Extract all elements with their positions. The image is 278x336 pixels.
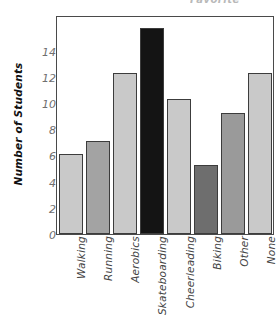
y-tick-8: 8	[30, 125, 56, 136]
bar-series	[57, 17, 273, 234]
y-tick-14: 14	[30, 46, 56, 57]
bar-skateboarding	[140, 28, 164, 234]
x-axis-tick-labels: WalkingRunningAerobicsSkateboardingCheer…	[56, 236, 274, 336]
bar-cheerleading	[167, 99, 191, 234]
x-tick-label-none: None	[265, 236, 277, 264]
bar-other	[221, 113, 245, 234]
bar-aerobics	[113, 73, 137, 234]
bar-slot-biking	[192, 17, 219, 234]
plot-area	[56, 16, 274, 235]
bar-biking	[194, 165, 218, 234]
y-axis-tick-labels: 02468101214	[30, 28, 56, 235]
y-tick-10: 10	[30, 98, 56, 109]
y-tick-0: 0	[30, 230, 56, 241]
bar-slot-other	[219, 17, 246, 234]
bar-walking	[59, 154, 83, 234]
x-tick-slot-other: Other	[220, 236, 247, 336]
y-tick-12: 12	[30, 72, 56, 83]
x-tick-slot-running: Running	[83, 236, 110, 336]
bar-none	[248, 73, 272, 234]
y-axis-title: Number of Students	[12, 54, 24, 194]
bar-slot-aerobics	[111, 17, 138, 234]
bar-slot-none	[246, 17, 273, 234]
y-tick-2: 2	[30, 203, 56, 214]
cut-off-title-fragment: Favorite	[190, 0, 278, 6]
y-tick-6: 6	[30, 151, 56, 162]
bar-running	[86, 141, 110, 234]
bar-slot-skateboarding	[138, 17, 165, 234]
x-tick-slot-aerobics: Aerobics	[111, 236, 138, 336]
bar-slot-walking	[57, 17, 84, 234]
x-tick-slot-walking: Walking	[56, 236, 83, 336]
x-tick-slot-skateboarding: Skateboarding	[138, 236, 165, 336]
x-tick-slot-none: None	[247, 236, 274, 336]
bar-slot-running	[84, 17, 111, 234]
x-tick-slot-cheerleading: Cheerleading	[165, 236, 192, 336]
cut-off-title-text: Favorite	[190, 0, 278, 5]
y-tick-4: 4	[30, 177, 56, 188]
x-tick-slot-biking: Biking	[192, 236, 219, 336]
bar-slot-cheerleading	[165, 17, 192, 234]
